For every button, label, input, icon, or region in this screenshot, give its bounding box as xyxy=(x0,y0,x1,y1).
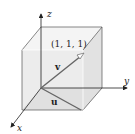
vector-u-label: u xyxy=(51,98,58,107)
point-label: (1, 1, 1) xyxy=(51,40,87,49)
vector-v-label: v xyxy=(55,63,60,72)
z-axis-label: z xyxy=(47,10,52,19)
y-axis-label: y xyxy=(124,77,129,86)
vector-cube-diagram: z y x (1, 1, 1) v u xyxy=(0,0,135,134)
diagram-graphic xyxy=(0,0,135,134)
x-axis-label: x xyxy=(17,124,22,133)
